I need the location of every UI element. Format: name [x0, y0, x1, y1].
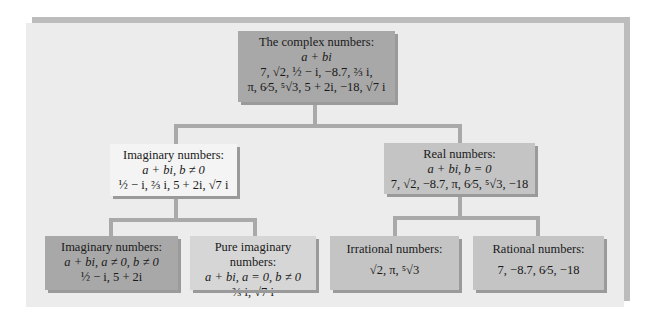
panel-shadow-right — [624, 17, 630, 301]
connector-to-irrational — [393, 216, 397, 236]
connector-imaginary-down — [174, 196, 178, 220]
node-examples: ½ − i, 5 + 2i — [45, 270, 178, 285]
node-pure-imaginary: Pure imaginary numbers: a + bi, a = 0, b… — [190, 236, 316, 290]
node-examples: 7, √2, ½ − i, −8.7, ⅔ i, — [238, 65, 395, 80]
node-title: The complex numbers: — [238, 35, 395, 50]
node-imaginary-nonpure: Imaginary numbers: a + bi, a ≠ 0, b ≠ 0 … — [45, 236, 178, 290]
connector-level1-horizontal — [174, 124, 462, 128]
box-shadow — [48, 290, 181, 293]
box-shadow — [193, 290, 319, 293]
box-shadow — [476, 290, 607, 293]
node-real-numbers: Real numbers: a + bi, b = 0 7, √2, −8.7,… — [384, 143, 535, 194]
connector-real-down — [458, 194, 462, 218]
node-form: a + bi, b ≠ 0 — [110, 163, 237, 178]
node-irrational-numbers: Irrational numbers: √2, π, ⁵√3 — [330, 236, 459, 290]
box-shadow — [178, 239, 181, 293]
box-shadow — [395, 34, 398, 105]
node-title: Irrational numbers: — [330, 242, 459, 257]
node-complex-numbers: The complex numbers: a + bi 7, √2, ½ − i… — [238, 31, 395, 102]
box-shadow — [333, 290, 462, 293]
node-imaginary-numbers: Imaginary numbers: a + bi, b ≠ 0 ½ − i, … — [110, 144, 237, 196]
box-shadow — [387, 194, 538, 197]
node-title: Real numbers: — [384, 147, 535, 162]
box-shadow — [604, 239, 607, 293]
box-shadow — [237, 147, 240, 199]
connector-to-imaginary — [174, 124, 178, 144]
connector-to-pure-imag — [253, 218, 257, 236]
connector-imaginary-horizontal — [109, 218, 257, 222]
node-examples: 7, −8.7, 6⁄5, −18 — [473, 263, 604, 278]
node-form: a + bi — [238, 50, 395, 65]
node-rational-numbers: Rational numbers: 7, −8.7, 6⁄5, −18 — [473, 236, 604, 290]
box-shadow — [535, 146, 538, 197]
connector-to-real — [458, 124, 462, 144]
node-examples: π, 6⁄5, ⁵√3, 5 + 2i, −18, √7 i — [238, 80, 395, 95]
node-title: Pure imaginary numbers: — [190, 240, 316, 270]
box-shadow — [113, 196, 240, 199]
box-shadow — [241, 102, 398, 105]
connector-to-rational — [536, 216, 540, 236]
box-shadow — [316, 239, 319, 293]
node-title: Imaginary numbers: — [45, 240, 178, 255]
node-title: Imaginary numbers: — [110, 148, 237, 163]
node-examples: √2, π, ⁵√3 — [330, 263, 459, 278]
node-examples: 7, √2, −8.7, π, 6⁄5, ⁵√3, −18 — [384, 177, 535, 192]
node-form: a + bi, a = 0, b ≠ 0 — [190, 270, 316, 285]
connector-real-horizontal — [393, 216, 540, 220]
box-shadow — [459, 239, 462, 293]
node-form: a + bi, a ≠ 0, b ≠ 0 — [45, 255, 178, 270]
node-examples: ½ − i, ⅔ i, 5 + 2i, √7 i — [110, 178, 237, 193]
connector-to-imag-nonpure — [109, 218, 113, 236]
node-title: Rational numbers: — [473, 242, 604, 257]
node-form: a + bi, b = 0 — [384, 162, 535, 177]
